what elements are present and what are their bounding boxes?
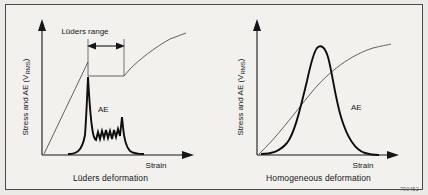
x-axis-label-homogeneous: Strain: [353, 161, 374, 170]
y-axis-label-homogeneous: Stress and AE (VRMS): [236, 58, 246, 135]
panel-homogeneous-deformation: AE Strain Stress and AE (VRMS) Homogeneo…: [215, 5, 422, 191]
panel-luders-deformation: Lüders range AE Strain Stress and AE (VR…: [6, 5, 215, 191]
ae-curve-homogeneous: [261, 46, 379, 155]
ae-label-homogeneous: AE: [351, 103, 362, 112]
figure-frame: Lüders range AE Strain Stress and AE (VR…: [5, 4, 423, 190]
y-axis-luders: [38, 19, 46, 155]
svg-text:Stress and AE (VRMS): Stress and AE (VRMS): [236, 58, 246, 135]
caption-luders: Lüders deformation: [6, 173, 215, 183]
figure-root: Lüders range AE Strain Stress and AE (VR…: [0, 0, 428, 195]
y-axis-label-luders: Stress and AE (VRMS): [21, 58, 31, 135]
plate-id: 790452: [400, 186, 419, 192]
svg-text:Stress and AE (VRMS): Stress and AE (VRMS): [21, 58, 31, 135]
ae-curve-luders: [68, 77, 144, 154]
luders-range-label: Lüders range: [61, 27, 109, 36]
x-axis-label-luders: Strain: [146, 161, 167, 170]
y-axis-homogeneous: [253, 19, 261, 155]
ae-label-luders: AE: [98, 105, 109, 114]
luders-range-arrow: [87, 43, 125, 50]
caption-homogeneous: Homogeneous deformation: [215, 173, 422, 183]
stress-curve-homogeneous: [259, 44, 391, 154]
homogeneous-chart-svg: AE Strain Stress and AE (VRMS): [215, 5, 422, 191]
luders-chart-svg: Lüders range AE Strain Stress and AE (VR…: [6, 5, 215, 191]
x-axis-luders: [42, 151, 194, 159]
